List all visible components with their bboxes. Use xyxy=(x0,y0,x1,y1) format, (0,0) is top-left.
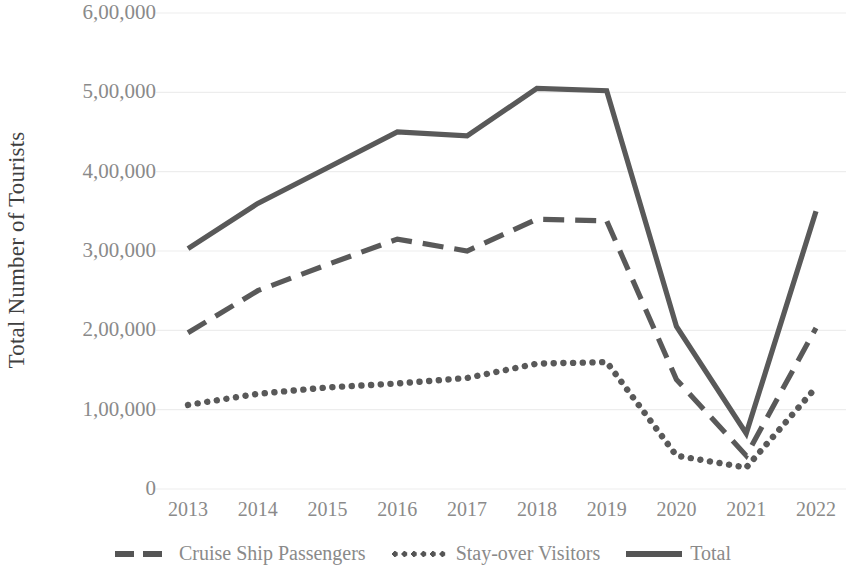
x-tick-label: 2020 xyxy=(641,497,711,521)
series-line-stay-over-visitors xyxy=(188,362,816,468)
x-tick-label: 2018 xyxy=(502,497,572,521)
x-tick-label: 2019 xyxy=(572,497,642,521)
legend-swatch-dotted-line-icon xyxy=(392,551,448,557)
series-line-total xyxy=(188,88,816,433)
legend-item[interactable]: Total xyxy=(626,542,731,565)
legend-item[interactable]: Stay-over Visitors xyxy=(392,542,601,565)
y-tick-label: 3,00,000 xyxy=(42,240,156,261)
x-tick-label: 2022 xyxy=(781,497,846,521)
y-axis-title: Total Number of Tourists xyxy=(0,0,34,500)
tourist-arrivals-line-chart: Total Number of Tourists 01,00,0002,00,0… xyxy=(0,0,846,571)
x-tick-label: 2014 xyxy=(223,497,293,521)
legend-label: Cruise Ship Passengers xyxy=(179,542,366,565)
plot-svg xyxy=(156,0,846,500)
x-axis-tick-labels: 2013201420152016201720182019202020212022 xyxy=(156,497,846,527)
x-tick-label: 2013 xyxy=(153,497,223,521)
legend-label: Total xyxy=(690,542,731,565)
series-line-cruise-ship-passengers xyxy=(188,219,816,455)
x-tick-label: 2016 xyxy=(362,497,432,521)
y-tick-label: 4,00,000 xyxy=(42,161,156,182)
legend-label: Stay-over Visitors xyxy=(456,542,601,565)
y-tick-label: 2,00,000 xyxy=(42,319,156,340)
x-tick-label: 2021 xyxy=(711,497,781,521)
y-tick-label: 5,00,000 xyxy=(42,81,156,102)
legend-swatch-solid-line-icon xyxy=(626,551,682,557)
y-axis-title-text: Total Number of Tourists xyxy=(4,132,30,369)
y-tick-label: 0 xyxy=(42,478,156,499)
x-tick-label: 2015 xyxy=(293,497,363,521)
chart-legend: Cruise Ship PassengersStay-over Visitors… xyxy=(0,536,846,571)
legend-swatch-dashed-line-icon xyxy=(115,551,171,557)
plot-area xyxy=(156,0,846,500)
legend-item[interactable]: Cruise Ship Passengers xyxy=(115,542,366,565)
y-axis-tick-labels: 01,00,0002,00,0003,00,0004,00,0005,00,00… xyxy=(34,0,156,500)
x-tick-label: 2017 xyxy=(432,497,502,521)
y-tick-label: 1,00,000 xyxy=(42,399,156,420)
y-tick-label: 6,00,000 xyxy=(42,2,156,23)
